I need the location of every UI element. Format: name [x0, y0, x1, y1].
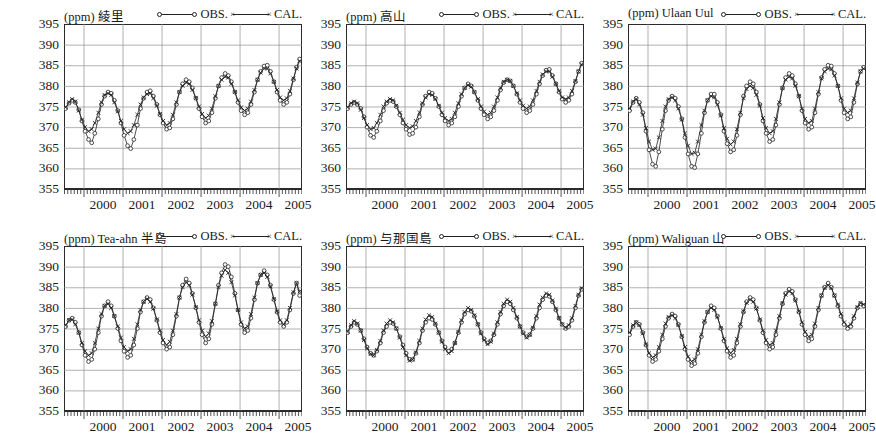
x-tick-label: 2000	[654, 420, 681, 434]
y-tick-label: 375	[39, 100, 59, 114]
x-tick-label: 2000	[654, 198, 681, 212]
plot-area	[346, 24, 584, 189]
legend-cal-symbol: ××	[231, 232, 271, 241]
x-tick-label: 2003	[771, 198, 798, 212]
panel-header: (ppm) 綾里OBS.××CAL.	[64, 6, 302, 24]
y-tick-label: 360	[321, 384, 341, 398]
station-name: Ulaan Uul	[662, 6, 714, 20]
legend-obs-symbol	[157, 232, 197, 241]
legend-obs-label: OBS.	[764, 229, 791, 244]
legend-cal-label: CAL.	[274, 7, 302, 22]
y-tick-label: 385	[603, 59, 623, 73]
y-tick-label: 355	[603, 182, 623, 196]
y-tick-label: 395	[603, 17, 623, 31]
x-tick-label: 2002	[732, 198, 759, 212]
legend: OBS.××CAL.	[439, 229, 584, 244]
panel-title: (ppm) Ulaan Uul	[628, 6, 713, 21]
y-axis-labels: 355360365370375380385390395	[308, 246, 344, 411]
y-tick-label: 365	[321, 363, 341, 377]
y-tick-label: 390	[321, 260, 341, 274]
station-name: 与那国島	[380, 232, 432, 246]
plot-area	[628, 24, 866, 189]
y-axis-labels: 355360365370375380385390395	[26, 24, 62, 189]
x-tick-label: 2000	[372, 420, 399, 434]
legend-obs-symbol	[439, 10, 479, 19]
y-tick-label: 375	[321, 100, 341, 114]
y-tick-label: 365	[603, 363, 623, 377]
x-axis-labels: 200020012002200320042005	[346, 198, 584, 216]
legend-cal-label: CAL.	[556, 229, 584, 244]
panel-header: (ppm) Waliguan 山OBS.××CAL.	[628, 228, 866, 246]
station-name: Tea-ahn 半島	[97, 232, 166, 246]
y-tick-label: 370	[603, 342, 623, 356]
y-tick-label: 395	[321, 17, 341, 31]
x-tick-label: 2003	[207, 198, 234, 212]
x-tick-label: 2004	[810, 420, 837, 434]
station-name: 綾里	[98, 10, 124, 24]
x-tick-label: 2001	[129, 198, 156, 212]
x-tick-label: 2002	[732, 420, 759, 434]
y-tick-label: 395	[39, 239, 59, 253]
x-tick-label: 2001	[411, 198, 438, 212]
y-tick-label: 375	[603, 322, 623, 336]
x-tick-label: 2002	[168, 198, 195, 212]
x-axis-labels: 200020012002200320042005	[628, 420, 866, 438]
panel-title: (ppm) Tea-ahn 半島	[64, 228, 167, 247]
y-tick-label: 370	[321, 342, 341, 356]
unit-label: (ppm)	[628, 232, 659, 246]
y-tick-label: 375	[39, 322, 59, 336]
y-tick-label: 390	[603, 260, 623, 274]
legend-obs-label: OBS.	[482, 7, 509, 22]
legend: OBS.××CAL.	[157, 7, 302, 22]
x-tick-label: 2002	[168, 420, 195, 434]
y-tick-label: 390	[321, 38, 341, 52]
legend-cal-symbol: ××	[513, 232, 553, 241]
y-axis-labels: 355360365370375380385390395	[308, 24, 344, 189]
y-tick-label: 390	[39, 260, 59, 274]
x-tick-label: 2004	[528, 198, 555, 212]
legend: OBS.××CAL.	[439, 7, 584, 22]
panel-ulaan-uul: (ppm) Ulaan UulOBS.××CAL.355360365370375…	[590, 6, 866, 225]
unit-label: (ppm)	[64, 232, 95, 246]
plot-area	[346, 246, 584, 411]
x-tick-label: 2004	[528, 420, 555, 434]
y-tick-label: 395	[39, 17, 59, 31]
panel-yonaguni: (ppm) 与那国島OBS.××CAL.35536036537037538038…	[308, 228, 584, 447]
y-tick-label: 395	[321, 239, 341, 253]
y-tick-label: 385	[39, 281, 59, 295]
legend-cal-symbol: ××	[795, 232, 835, 241]
y-tick-label: 370	[39, 120, 59, 134]
y-tick-label: 370	[321, 120, 341, 134]
x-tick-label: 2002	[450, 198, 477, 212]
legend-cal-label: CAL.	[838, 229, 866, 244]
legend-cal-label: CAL.	[274, 229, 302, 244]
panel-header: (ppm) 与那国島OBS.××CAL.	[346, 228, 584, 246]
legend-cal-symbol: ××	[795, 10, 835, 19]
x-tick-label: 2003	[489, 420, 516, 434]
x-axis-labels: 200020012002200320042005	[64, 420, 302, 438]
x-tick-label: 2005	[849, 420, 876, 434]
x-tick-label: 2003	[207, 420, 234, 434]
y-tick-label: 385	[321, 281, 341, 295]
y-tick-label: 380	[39, 79, 59, 93]
x-tick-label: 2001	[129, 420, 156, 434]
y-tick-label: 365	[39, 363, 59, 377]
unit-label: (ppm)	[628, 6, 659, 20]
y-axis-labels: 355360365370375380385390395	[26, 246, 62, 411]
plot-area	[628, 246, 866, 411]
y-tick-label: 355	[603, 404, 623, 418]
legend-obs-symbol	[157, 10, 197, 19]
x-tick-label: 2003	[771, 420, 798, 434]
x-tick-label: 2004	[810, 198, 837, 212]
x-tick-label: 2004	[246, 420, 273, 434]
legend-cal-label: CAL.	[838, 7, 866, 22]
y-tick-label: 380	[603, 79, 623, 93]
y-tick-label: 395	[603, 239, 623, 253]
panel-tea-ahn: (ppm) Tea-ahn 半島OBS.××CAL.35536036537037…	[26, 228, 302, 447]
y-tick-label: 360	[39, 162, 59, 176]
legend-obs-symbol	[721, 232, 761, 241]
y-tick-label: 370	[39, 342, 59, 356]
panel-header: (ppm) Ulaan UulOBS.××CAL.	[628, 6, 866, 24]
y-tick-label: 385	[39, 59, 59, 73]
